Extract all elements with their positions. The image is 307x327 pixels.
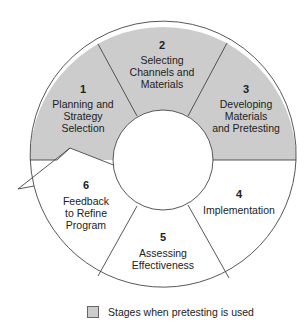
svg-text:and Pretesting: and Pretesting [212,122,280,134]
svg-text:Selection: Selection [61,122,104,134]
svg-text:Developing: Developing [220,98,273,110]
cycle-diagram: 1 Planning and Strategy Selection 2 Sele… [0,0,307,327]
inner-circle [113,110,213,210]
svg-text:Planning and: Planning and [52,98,113,110]
svg-text:3: 3 [243,83,249,95]
svg-text:Effectiveness: Effectiveness [132,259,194,271]
svg-text:to Refine: to Refine [65,207,107,219]
legend-swatch [87,306,99,318]
svg-text:4: 4 [236,188,243,200]
legend: Stages when pretesting is used [87,306,254,318]
svg-text:Implementation: Implementation [203,204,275,216]
svg-text:1: 1 [80,83,86,95]
svg-text:6: 6 [83,179,89,191]
svg-text:5: 5 [160,231,166,243]
legend-label: Stages when pretesting is used [108,306,254,318]
svg-text:Assessing: Assessing [139,247,187,259]
svg-text:Strategy: Strategy [63,110,103,122]
svg-text:Program: Program [66,219,107,231]
svg-text:Channels and: Channels and [130,66,195,78]
svg-text:Feedback: Feedback [63,195,110,207]
svg-text:Selecting: Selecting [140,54,183,66]
svg-text:Materials: Materials [225,110,268,122]
svg-text:Materials: Materials [141,78,184,90]
svg-text:2: 2 [159,39,165,51]
